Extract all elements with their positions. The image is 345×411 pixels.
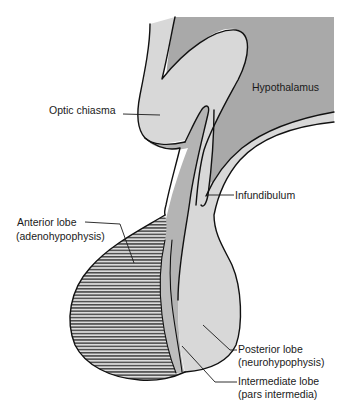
optic-chiasma-label: Optic chiasma [49,104,116,116]
intermediate-lobe-label-line2: (pars intermedia) [238,388,317,400]
posterior-lobe-label-line1: Posterior lobe [238,343,303,355]
anterior-lobe-label-line2: (adenohypophysis) [16,230,105,242]
label-hypothalamus: Hypothalamus [252,81,319,93]
posterior-lobe-label-line2: (neurohypophysis) [238,356,324,368]
infundibulum-label: Infundibulum [235,189,295,201]
hypothalamus-label: Hypothalamus [252,81,319,93]
pituitary-diagram: Hypothalamus Optic chiasma Infundibulum … [0,0,345,411]
intermediate-lobe-label-line1: Intermediate lobe [238,375,319,387]
anterior-lobe-label-line1: Anterior lobe [17,216,77,228]
